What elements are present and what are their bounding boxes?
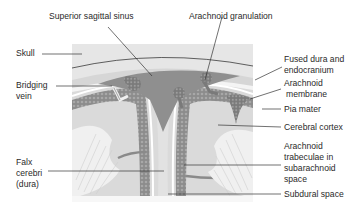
label-falx-line1: Falx [16,157,32,168]
label-arachnoid-membrane-line2: membrane [286,89,327,100]
label-bridging-vein-line2: vein [16,91,32,102]
label-trabeculae-line4: space [284,174,307,185]
label-bridging-vein-line1: Bridging [16,80,48,91]
label-arachnoid-membrane-line1: Arachnoid [284,78,323,89]
label-superior-sagittal-sinus: Superior sagittal sinus [49,11,134,22]
label-arachnoid-granulation: Arachnoid granulation [189,11,273,22]
label-skull: Skull [16,48,35,59]
granulation-right [200,72,212,84]
label-pia-mater: Pia mater [284,104,321,115]
label-trabeculae-line1: Arachnoid [284,141,323,152]
label-falx-line2: cerebri [16,168,42,179]
label-trabeculae-line3: subarachnoid [284,163,336,174]
label-subdural-space: Subdural space [284,189,344,200]
granulation-center [173,87,185,99]
label-falx-line3: (dura) [16,179,39,190]
label-fused-dura-line2: endocranium [284,65,334,76]
label-trabeculae-line2: trabeculae in [284,152,333,163]
label-cerebral-cortex: Cerebral cortex [284,122,343,133]
label-fused-dura-line1: Fused dura and [284,54,344,65]
